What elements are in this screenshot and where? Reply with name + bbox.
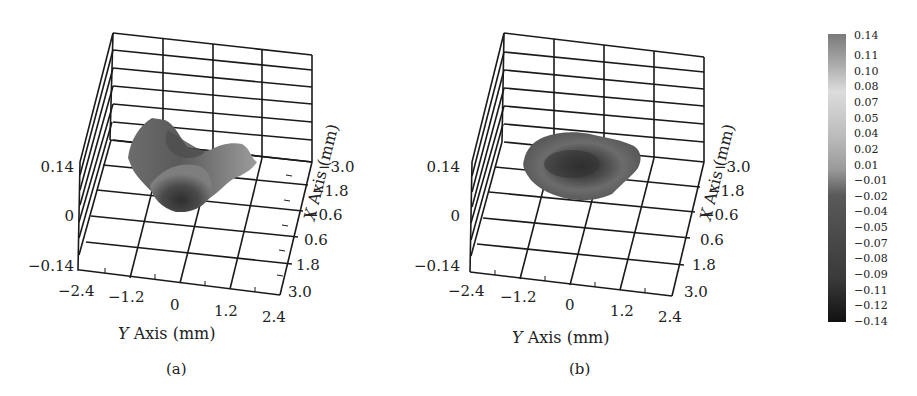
colorbar-tick-label: 0.01 (854, 160, 879, 171)
x-tick-label: 1.8 (296, 258, 320, 273)
surface-plot-b: 0.14 0 −0.14 −2.4 −1.2 0 1.2 2.4 −3.0 −1… (392, 0, 792, 396)
x-tick-label: 0.6 (304, 233, 328, 248)
colorbar-tick-label: −0.14 (854, 316, 888, 327)
x-tick-label: 0.6 (700, 233, 724, 248)
z-tick-label: 0 (14, 209, 74, 224)
panel-caption-b: (b) (569, 362, 590, 377)
x-tick-label: 1.8 (692, 258, 716, 273)
colorbar-tick-label: 0.04 (854, 128, 879, 139)
colorbar-tick-label: −0.11 (854, 285, 888, 296)
colorbar-tick-label: −0.02 (854, 191, 888, 202)
y-tick-label: −2.4 (58, 284, 94, 299)
colorbar-tick-label: −0.12 (854, 300, 888, 311)
colorbar (828, 34, 846, 322)
z-tick-label: −0.14 (14, 259, 74, 274)
z-tick-label: 0.14 (400, 160, 460, 175)
colorbar-tick-label: 0.02 (854, 144, 879, 155)
y-tick-label: 1.2 (610, 304, 634, 319)
colorbar-tick-label: −0.01 (854, 175, 888, 186)
y-tick-label: 2.4 (658, 310, 682, 325)
y-tick-label: 1.2 (214, 304, 238, 319)
x-tick-label: 3.0 (684, 285, 708, 300)
y-tick-label: 0 (170, 298, 180, 313)
x-tick-label: 3.0 (288, 285, 312, 300)
y-axis-title: Y Axis (mm) (512, 330, 609, 346)
colorbar-tick-label: −0.09 (854, 269, 888, 280)
y-tick-label: 2.4 (262, 310, 286, 325)
colorbar-tick-label: −0.05 (854, 222, 888, 233)
surface-b (523, 132, 640, 200)
y-tick-label: 0 (565, 298, 575, 313)
y-tick-label: −1.2 (108, 290, 144, 305)
colorbar-tick-label: 0.14 (854, 30, 879, 41)
colorbar-tick-label: 0.05 (854, 113, 879, 124)
colorbar-tick-label: 0.08 (854, 81, 879, 92)
z-tick-label: −0.14 (400, 259, 460, 274)
y-tick-label: −1.2 (500, 290, 536, 305)
colorbar-tick-label: 0.07 (854, 97, 879, 108)
colorbar-tick-label: −0.07 (854, 238, 888, 249)
colorbar-tick-label: −0.04 (854, 206, 888, 217)
surface-a (128, 118, 257, 212)
panel-caption-a: (a) (166, 362, 187, 377)
surface-plot-a: 0.14 0 −0.14 −2.4 −1.2 0 1.2 2.4 −3.0 −1… (0, 0, 400, 396)
colorbar-tick-label: 0.11 (854, 50, 879, 61)
y-axis-title: Y Axis (mm) (118, 326, 215, 342)
z-tick-label: 0 (400, 209, 460, 224)
colorbar-tick-label: −0.08 (854, 253, 888, 264)
colorbar-tick-label: 0.10 (854, 66, 879, 77)
z-tick-label: 0.14 (14, 160, 74, 175)
y-tick-label: −2.4 (448, 284, 484, 299)
